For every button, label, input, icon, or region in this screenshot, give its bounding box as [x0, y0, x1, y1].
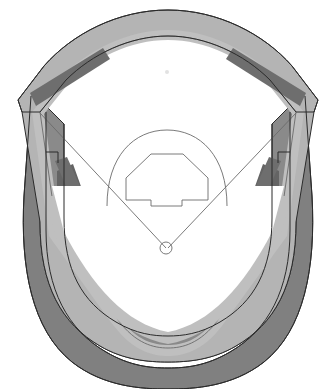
- stadium-plan-svg: Baseball stadium plan view: [0, 0, 336, 389]
- stadium-diagram-figure: Baseball stadium plan view: [0, 0, 336, 389]
- pitchers-mound-mark: [165, 70, 169, 74]
